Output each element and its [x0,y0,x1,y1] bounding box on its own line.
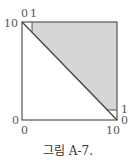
label-top-left-y: 10 [4,17,18,30]
label-origin-y: 0 [12,114,19,127]
label-top-x0: 0 [21,7,28,20]
figure-caption: 그림 A-7. [43,144,93,158]
diagram: 10 0 1 0 0 10 1 0 그림 A-7. [0,0,134,164]
label-top-x1: 1 [30,7,37,20]
label-right-y0: 0 [121,114,128,127]
label-origin-x: 0 [21,124,28,137]
label-bottom-right-x: 10 [106,124,120,137]
shaded-region-body [32,22,117,110]
